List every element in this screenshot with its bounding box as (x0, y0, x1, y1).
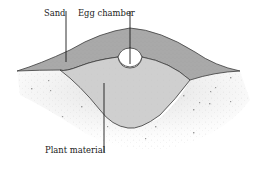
egg-chamber-label: Egg chamber (78, 9, 135, 17)
plant-material-label: Plant material (45, 146, 105, 154)
diagram-canvas (0, 0, 260, 171)
nest-cross-section-diagram: Sand Egg chamber Plant material (0, 0, 260, 171)
sand-label: Sand (44, 9, 66, 17)
